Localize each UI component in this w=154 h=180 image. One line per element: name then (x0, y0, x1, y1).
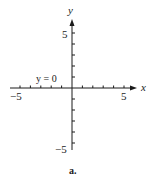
y-axis-arrow-icon (70, 19, 75, 26)
x-tick-label-min: −5 (10, 91, 22, 102)
y-axis-label: y (68, 5, 73, 16)
x-tick-label-max: 5 (121, 91, 127, 102)
x-axis (10, 86, 137, 91)
y-tick-label-min: −5 (55, 144, 67, 155)
equation-label: y = 0 (36, 74, 57, 84)
y-tick-label-max: 5 (62, 29, 68, 40)
coordinate-plane (0, 0, 154, 180)
y-axis (70, 19, 76, 150)
x-axis-label: x (141, 82, 146, 93)
x-axis-arrow-icon (130, 86, 137, 91)
figure-caption: a. (69, 166, 77, 176)
